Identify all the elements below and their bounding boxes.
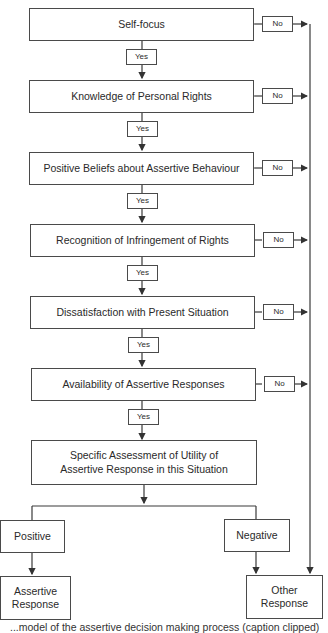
step-dissatisfaction: Dissatisfaction with Present Situation: [30, 296, 255, 329]
step-recognition-of-infringement: Recognition of Infringement of Rights: [30, 224, 255, 257]
yes-label: Yes: [126, 49, 157, 65]
yes-label: Yes: [128, 337, 159, 353]
yes-label: Yes: [127, 193, 158, 209]
step-positive-beliefs: Positive Beliefs about Assertive Behavio…: [29, 152, 254, 185]
figure-caption-clipped: ...model of the assertive decision makin…: [10, 621, 319, 633]
step-knowledge-of-rights: Knowledge of Personal Rights: [29, 80, 254, 113]
positive-branch: Positive: [0, 520, 65, 553]
yes-label: Yes: [127, 121, 158, 137]
no-label: No: [263, 304, 294, 320]
no-label: No: [264, 376, 295, 392]
step-availability: Availability of Assertive Responses: [31, 368, 256, 401]
assertive-response-outcome: Assertive Response: [0, 576, 71, 620]
step-self-focus: Self-focus: [29, 8, 254, 41]
yes-label: Yes: [127, 265, 158, 281]
no-label: No: [262, 16, 293, 32]
no-label: No: [262, 160, 293, 176]
yes-label: Yes: [128, 409, 159, 425]
no-label: No: [263, 232, 294, 248]
no-label: No: [262, 88, 293, 104]
assessment-box: Specific Assessment of Utility of Assert…: [31, 440, 257, 485]
other-response-outcome: Other Response: [246, 575, 323, 619]
negative-branch: Negative: [224, 519, 290, 552]
